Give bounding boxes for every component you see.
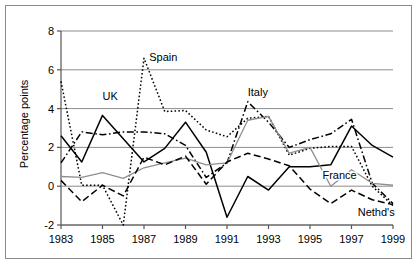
y-tick-label--2: -2 (44, 219, 54, 231)
x-tick-label-1997: 1997 (339, 233, 363, 245)
series-label-group-uk: UKUK (103, 90, 119, 102)
series-label-group-nethds: Nethd'sNethd's (358, 206, 395, 218)
x-tick-label-1989: 1989 (173, 233, 197, 245)
series-label-nethds: Nethd's (358, 206, 395, 218)
figure: Percentage points -202468198319851987198… (0, 0, 418, 265)
series-label-group-france: FranceFrance (322, 169, 356, 181)
x-tick-label-1999: 1999 (381, 233, 405, 245)
y-tick-label-4: 4 (48, 103, 54, 115)
y-tick-label-8: 8 (48, 25, 54, 37)
x-tick-label-1991: 1991 (215, 233, 239, 245)
series-line-italy (61, 102, 393, 204)
series-label-group-italy: ItalyItaly (248, 86, 269, 98)
y-tick-label-0: 0 (48, 180, 54, 192)
x-tick-label-1987: 1987 (132, 233, 156, 245)
x-tick-label-1983: 1983 (49, 233, 73, 245)
x-tick-label-1995: 1995 (298, 233, 322, 245)
series-label-italy: Italy (248, 86, 269, 98)
x-tick-label-1985: 1985 (90, 233, 114, 245)
y-tick-label-6: 6 (48, 64, 54, 76)
plot-wrapper: Percentage points -202468198319851987198… (0, 0, 418, 265)
series-label-spain: Spain (149, 51, 177, 63)
y-tick-label-2: 2 (48, 141, 54, 153)
line-chart: -202468198319851987198919911993199519971… (0, 0, 418, 265)
series-label-france: France (322, 169, 356, 181)
series-label-uk: UK (103, 90, 119, 102)
x-tick-label-1993: 1993 (256, 233, 280, 245)
series-label-group-spain: SpainSpain (149, 51, 177, 63)
